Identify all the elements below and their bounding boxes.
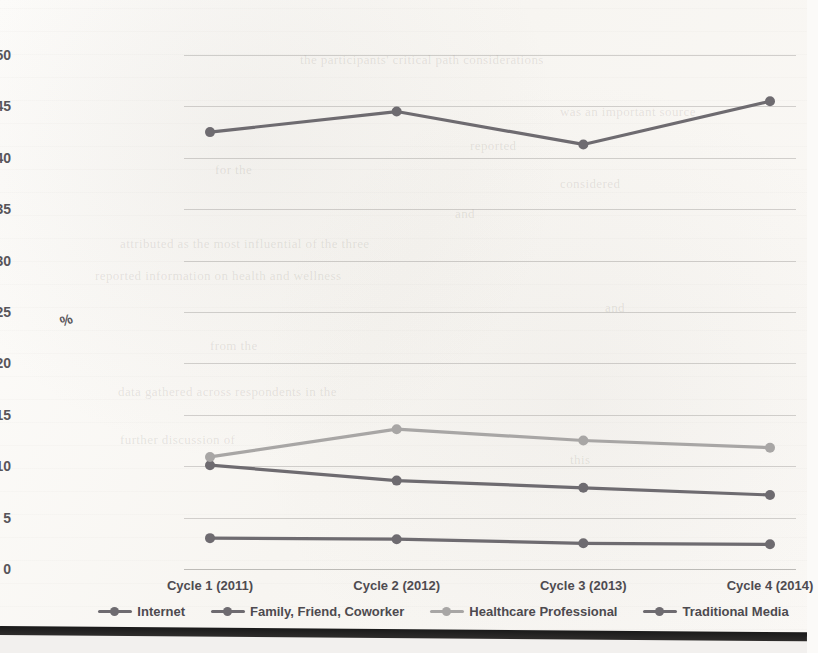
legend-swatch-icon bbox=[211, 606, 245, 617]
data-point bbox=[205, 452, 215, 462]
line-chart: % 50454035302520151050 Cycle 1 (2011)Cyc… bbox=[40, 16, 767, 637]
series-line bbox=[210, 465, 770, 495]
y-axis-tick: 15 bbox=[0, 407, 11, 423]
legend-swatch-icon bbox=[98, 606, 132, 617]
data-point bbox=[205, 533, 215, 543]
y-axis-tick: 0 bbox=[0, 561, 11, 577]
data-point bbox=[578, 139, 588, 149]
plot-area bbox=[184, 55, 796, 569]
legend-item[interactable]: Internet bbox=[98, 604, 185, 619]
x-axis-tick: Cycle 1 (2011) bbox=[120, 578, 300, 593]
y-axis-tick: 45 bbox=[0, 98, 11, 114]
x-axis-tick: Cycle 2 (2012) bbox=[307, 578, 487, 593]
series-line bbox=[210, 101, 770, 144]
series-layer bbox=[184, 55, 796, 569]
legend-item[interactable]: Healthcare Professional bbox=[430, 604, 617, 619]
x-axis-tick: Cycle 3 (2013) bbox=[493, 578, 673, 593]
y-axis-tick: 50 bbox=[0, 47, 11, 63]
data-point bbox=[578, 538, 588, 548]
data-point bbox=[392, 107, 402, 117]
legend-swatch-icon bbox=[643, 606, 677, 617]
data-point bbox=[392, 534, 402, 544]
data-point bbox=[765, 539, 775, 549]
chart-legend: InternetFamily, Friend, CoworkerHealthca… bbox=[40, 604, 818, 619]
gridline bbox=[184, 569, 796, 570]
y-axis-tick: 20 bbox=[0, 355, 11, 371]
series-line bbox=[210, 538, 770, 544]
legend-item[interactable]: Traditional Media bbox=[643, 604, 788, 619]
legend-label: Healthcare Professional bbox=[469, 604, 617, 619]
x-axis-tick: Cycle 4 (2014) bbox=[680, 578, 818, 593]
data-point bbox=[392, 476, 402, 486]
series-line bbox=[210, 429, 770, 457]
data-point bbox=[578, 436, 588, 446]
legend-label: Traditional Media bbox=[682, 604, 788, 619]
data-point bbox=[392, 424, 402, 434]
y-axis-tick: 40 bbox=[0, 150, 11, 166]
y-axis-tick: 35 bbox=[0, 201, 11, 217]
y-axis-tick: 30 bbox=[0, 253, 11, 269]
y-axis-title: % bbox=[58, 311, 74, 330]
y-axis-tick: 5 bbox=[0, 510, 11, 526]
y-axis-tick: 10 bbox=[0, 458, 11, 474]
data-point bbox=[765, 96, 775, 106]
data-point bbox=[765, 443, 775, 453]
legend-label: Internet bbox=[137, 604, 185, 619]
data-point bbox=[205, 127, 215, 137]
data-point bbox=[578, 483, 588, 493]
legend-label: Family, Friend, Coworker bbox=[250, 604, 404, 619]
y-axis-tick: 25 bbox=[0, 304, 11, 320]
legend-swatch-icon bbox=[430, 606, 464, 617]
data-point bbox=[765, 490, 775, 500]
legend-item[interactable]: Family, Friend, Coworker bbox=[211, 604, 404, 619]
